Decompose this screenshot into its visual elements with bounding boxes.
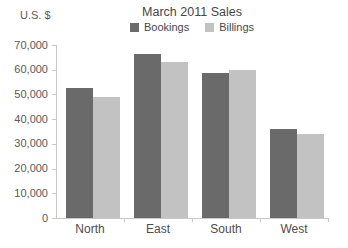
y-tick-label: 70,000 xyxy=(0,40,48,51)
legend-item-billings: Billings xyxy=(205,21,254,33)
bar-billings-north xyxy=(93,97,120,218)
chart: U.S. $ March 2011 Sales Bookings Billing… xyxy=(0,0,348,248)
y-tick-label: 60,000 xyxy=(0,64,48,75)
y-tick-mark xyxy=(52,94,56,95)
billings-swatch-icon xyxy=(205,23,214,32)
y-tick-label: 30,000 xyxy=(0,138,48,149)
legend-label-bookings: Bookings xyxy=(144,21,189,33)
legend: Bookings Billings xyxy=(56,21,328,33)
x-category-label: North xyxy=(56,222,124,236)
y-tick-mark xyxy=(52,193,56,194)
x-tick-mark xyxy=(328,219,329,222)
y-tick-mark xyxy=(52,119,56,120)
bar-bookings-south xyxy=(202,73,229,218)
bar-billings-east xyxy=(161,62,188,218)
y-tick-mark xyxy=(52,144,56,145)
y-axis-title: U.S. $ xyxy=(20,9,51,21)
bar-billings-west xyxy=(297,134,324,218)
y-tick-mark xyxy=(52,45,56,46)
x-category-label: East xyxy=(124,222,192,236)
y-tick-label: 10,000 xyxy=(0,188,48,199)
y-tick-label: 50,000 xyxy=(0,89,48,100)
legend-label-billings: Billings xyxy=(219,21,254,33)
bar-bookings-west xyxy=(270,129,297,218)
y-tick-label: 40,000 xyxy=(0,114,48,125)
x-category-label: West xyxy=(260,222,328,236)
y-tick-mark xyxy=(52,70,56,71)
y-tick-label: 20,000 xyxy=(0,163,48,174)
y-tick-mark xyxy=(52,169,56,170)
legend-item-bookings: Bookings xyxy=(130,21,189,33)
y-tick-label: 0 xyxy=(0,213,48,224)
bookings-swatch-icon xyxy=(130,23,139,32)
y-tick-mark xyxy=(52,218,56,219)
chart-title: March 2011 Sales xyxy=(56,5,328,19)
x-category-label: South xyxy=(192,222,260,236)
bar-billings-south xyxy=(229,70,256,218)
bar-bookings-north xyxy=(66,88,93,218)
bar-bookings-east xyxy=(134,54,161,218)
plot-area xyxy=(56,45,329,219)
